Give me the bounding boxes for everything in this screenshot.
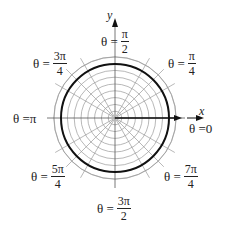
y-axis-arrowhead [112,18,118,27]
fraction: 3π 4 [53,50,67,77]
grid-radial-line [66,69,113,116]
x-axis-label: x [199,104,204,119]
angle-label-prefix: θ = [31,170,48,183]
angle-label-value: 0 [206,122,213,135]
y-axis-label: y [107,8,112,23]
angle-label-prefix: θ = [13,112,30,125]
angle-label-pi: θ = π [13,112,36,125]
angle-label-prefix: θ = [168,57,185,70]
fraction-numerator: 3π [53,50,67,64]
fraction-numerator: 5π [51,163,65,177]
fraction-denominator: 4 [57,64,63,77]
angle-label-7pi-over-4: θ = 7π 4 [164,163,198,190]
angle-label-prefix: θ = [164,170,181,183]
theta-zero-ray-arrowhead [174,115,182,121]
fraction: π 4 [188,50,196,77]
angle-label-prefix: θ = [33,57,50,70]
angle-label-value: π [30,112,37,125]
fraction-denominator: 2 [121,209,127,222]
angle-label-prefix: θ = [101,35,118,48]
angle-label-pi-over-4: θ = π 4 [168,50,196,77]
angle-label-3pi-over-2: θ = 3π 2 [97,195,131,222]
fraction: 7π 4 [184,163,198,190]
fraction-denominator: 4 [188,177,194,190]
fraction-denominator: 4 [189,64,195,77]
fraction-denominator: 4 [55,177,61,190]
angle-label-prefix: θ = [97,202,114,215]
fraction-numerator: π [188,50,196,64]
grid-radial-line [116,69,163,116]
angle-label-5pi-over-4: θ = 5π 4 [31,163,65,190]
grid-radial-line [66,119,113,166]
fraction: 5π 4 [51,163,65,190]
fraction-numerator: 7π [184,163,198,177]
angle-label-pi-over-2: θ = π 2 [101,28,129,55]
angle-label-3pi-over-4: θ = 3π 4 [33,50,67,77]
angle-label-prefix: θ = [189,122,206,135]
fraction-numerator: 3π [117,195,131,209]
fraction: 3π 2 [117,195,131,222]
fraction-denominator: 2 [122,42,128,55]
angle-label-0: θ = 0 [189,122,212,135]
fraction: π 2 [121,28,129,55]
fraction-numerator: π [121,28,129,42]
grid-radial-line [116,119,163,166]
